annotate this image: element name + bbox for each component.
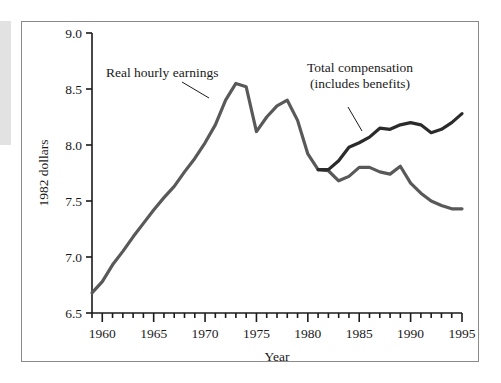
x-axis: 19601965197019751980198519901995: [89, 313, 476, 341]
real-hourly-earnings-annotation-line-0: Real hourly earnings: [106, 65, 218, 80]
y-axis-tick-label: 8.5: [65, 82, 82, 97]
y-axis-tick-label: 6.5: [65, 306, 82, 321]
data-line-series-1: [318, 114, 462, 170]
figure-root: 6.57.07.58.08.59.0 196019651970197519801…: [0, 0, 501, 383]
x-axis-tick-label: 1980: [294, 326, 321, 341]
annotation-leader-line: [348, 107, 362, 131]
y-axis-tick-label: 8.0: [65, 138, 82, 153]
line-chart: 6.57.07.58.08.59.0 196019651970197519801…: [0, 0, 501, 383]
y-axis-tick-label: 7.0: [65, 250, 82, 265]
y-axis-tick-label: 9.0: [65, 26, 82, 41]
x-axis-tick-label: 1960: [89, 326, 116, 341]
x-axis-tick-label: 1975: [243, 326, 270, 341]
y-axis: 6.57.07.58.08.59.0: [65, 26, 92, 321]
x-axis-tick-label: 1970: [192, 326, 219, 341]
data-series-group: [92, 83, 462, 292]
x-axis-tick-label: 1995: [449, 326, 476, 341]
annotation-group: Real hourly earningsTotal compensation(i…: [106, 60, 413, 131]
x-axis-tick-label: 1985: [346, 326, 373, 341]
x-axis-title: Year: [265, 349, 290, 364]
x-axis-tick-label: 1965: [140, 326, 167, 341]
y-axis-title: 1982 dollars: [36, 139, 51, 206]
x-axis-tick-label: 1990: [397, 326, 424, 341]
total-compensation-annotation-line-1: (includes benefits): [310, 76, 410, 91]
y-axis-tick-label: 7.5: [65, 194, 82, 209]
annotation-leader-line: [182, 82, 209, 98]
total-compensation-annotation-line-0: Total compensation: [307, 60, 413, 75]
data-line-series-0: [92, 83, 462, 292]
